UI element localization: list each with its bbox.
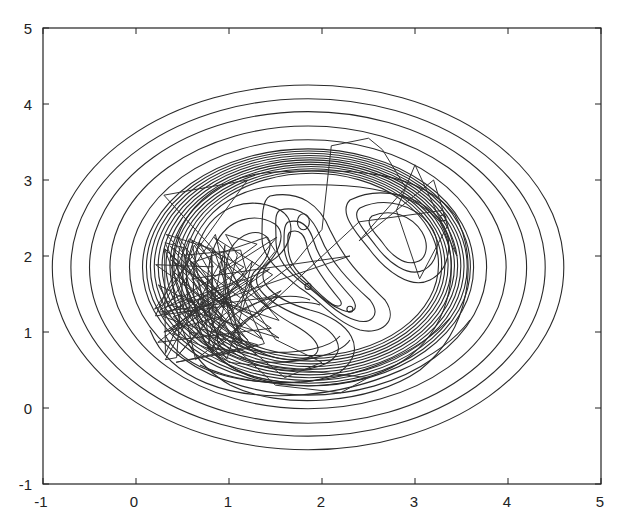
x-tick-label: 0 bbox=[119, 494, 149, 509]
x-tick-label: -1 bbox=[26, 494, 56, 509]
y-tick-label: 3 bbox=[8, 173, 32, 188]
x-tick-label: 3 bbox=[399, 494, 429, 509]
y-tick-label: -1 bbox=[8, 477, 32, 492]
x-tick-label: 4 bbox=[492, 494, 522, 509]
y-tick-label: 2 bbox=[8, 249, 32, 264]
x-tick-label: 2 bbox=[306, 494, 336, 509]
contour-lines bbox=[52, 85, 564, 450]
y-tick-label: 0 bbox=[8, 401, 32, 416]
y-tick-label: 1 bbox=[8, 325, 32, 340]
y-tick-label: 4 bbox=[8, 97, 32, 112]
x-tick-label: 1 bbox=[213, 494, 243, 509]
contour-plot bbox=[0, 0, 622, 529]
y-tick-label: 5 bbox=[8, 21, 32, 36]
x-tick-label: 5 bbox=[585, 494, 615, 509]
